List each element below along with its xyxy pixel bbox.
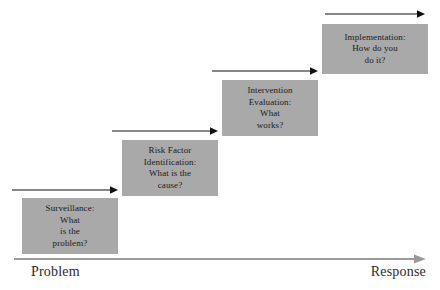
step-arrow-3 bbox=[212, 65, 318, 77]
step-line: Risk Factor bbox=[149, 145, 192, 157]
step-line: works? bbox=[257, 120, 284, 132]
step-line: What bbox=[260, 108, 280, 120]
step-box-implementation: Implementation: How do you do it? bbox=[322, 24, 428, 74]
step-line: Intervention bbox=[247, 85, 292, 97]
step-line: How do you bbox=[352, 43, 398, 55]
step-line: cause? bbox=[158, 180, 183, 192]
step-box-surveillance: Surveillance: What is the problem? bbox=[22, 198, 118, 254]
step-box-intervention-evaluation: Intervention Evaluation: What works? bbox=[222, 80, 318, 136]
step-line: is the bbox=[60, 226, 80, 238]
step-line: What is the bbox=[149, 168, 191, 180]
step-line: What bbox=[60, 215, 80, 227]
step-box-risk-factor-identification: Risk Factor Identification: What is the … bbox=[122, 140, 218, 196]
axis-label-response: Response bbox=[371, 264, 426, 280]
step-line: Identification: bbox=[144, 157, 196, 169]
step-line: do it? bbox=[365, 55, 386, 67]
public-health-approach-diagram: Implementation: How do you do it? Interv… bbox=[0, 0, 440, 290]
step-line: problem? bbox=[53, 238, 88, 250]
step-arrow-4 bbox=[325, 8, 425, 20]
step-line: Surveillance: bbox=[46, 203, 95, 215]
step-line: Implementation: bbox=[345, 32, 406, 44]
axis-label-problem: Problem bbox=[31, 264, 80, 280]
step-line: Evaluation: bbox=[249, 97, 292, 109]
step-arrow-2 bbox=[112, 125, 218, 137]
step-arrow-1 bbox=[12, 184, 118, 196]
